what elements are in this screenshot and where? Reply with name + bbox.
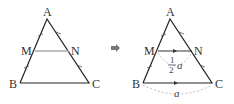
midpoint-theorem-diagram: A M N B C 1 2 a a A M N B C xyxy=(0,0,234,104)
fraction-variable: a xyxy=(177,59,183,71)
label-a: A xyxy=(43,5,52,19)
label-c: C xyxy=(92,77,100,91)
fraction-numerator: 1 xyxy=(170,55,175,65)
fraction-denominator: 2 xyxy=(169,65,174,75)
label-b: B xyxy=(9,77,17,91)
parallel-arrow-bc xyxy=(174,81,178,85)
left-triangle: A M N B C xyxy=(9,5,100,91)
label-n: N xyxy=(71,44,80,58)
label-c: C xyxy=(215,77,223,91)
label-a: A xyxy=(166,5,175,19)
mn-length-arc xyxy=(158,53,192,66)
label-m: M xyxy=(144,44,155,58)
transition-arrow-icon xyxy=(111,44,120,52)
label-n: N xyxy=(194,44,203,58)
label-m: M xyxy=(21,44,32,58)
bc-length-label: a xyxy=(174,87,180,99)
right-triangle: 1 2 a a A M N B C xyxy=(132,5,223,99)
parallel-arrow-mn xyxy=(173,49,177,53)
label-b: B xyxy=(132,77,140,91)
